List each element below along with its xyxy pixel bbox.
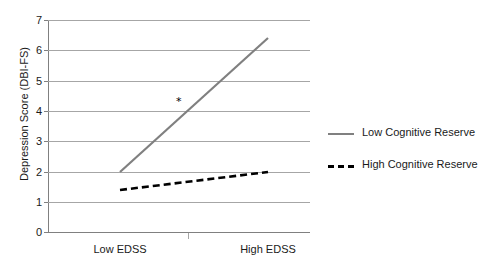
y-tick-label-2: 2 <box>16 167 42 178</box>
gridline-7 <box>48 20 310 21</box>
gridline-6 <box>48 50 310 51</box>
x-tick-label-low-edss: Low EDSS <box>78 243 162 255</box>
y-tick-label-1: 1 <box>16 197 42 208</box>
y-tick-label-7: 7 <box>16 15 42 26</box>
gridline-0-baseline <box>48 232 310 233</box>
legend-label-low-cognitive-reserve: Low Cognitive Reserve <box>362 126 475 139</box>
chart-legend: Low Cognitive Reserve High Cognitive Res… <box>328 122 473 186</box>
legend-entry-low-cognitive-reserve: Low Cognitive Reserve <box>328 122 473 154</box>
legend-swatch-dashed-line-icon <box>328 165 354 168</box>
gridline-5 <box>48 81 310 82</box>
y-tick-label-4: 4 <box>16 106 42 117</box>
gridline-1 <box>48 202 310 203</box>
x-axis-center-tick <box>188 233 189 239</box>
legend-entry-high-cognitive-reserve: High Cognitive Reserve <box>328 154 473 186</box>
y-tick-label-3: 3 <box>16 136 42 147</box>
gridline-3 <box>48 141 310 142</box>
y-tick-label-0: 0 <box>16 227 42 238</box>
y-tick-label-5: 5 <box>16 76 42 87</box>
gridline-2 <box>48 172 310 173</box>
significance-star-annotation: * <box>176 96 182 107</box>
y-axis-tick-labels: 7 6 5 4 3 2 1 0 <box>8 0 42 272</box>
legend-swatch-solid-line-icon <box>328 133 354 135</box>
legend-label-high-cognitive-reserve: High Cognitive Reserve <box>362 158 478 171</box>
plot-area <box>48 20 310 232</box>
x-tick-label-high-edss: High EDSS <box>226 243 310 255</box>
y-tick-label-6: 6 <box>16 45 42 56</box>
gridline-4 <box>48 111 310 112</box>
